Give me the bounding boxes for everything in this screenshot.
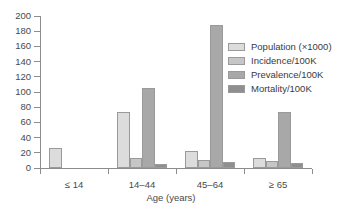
chart-legend: Population (×1000)Incidence/100KPrevalen… <box>228 40 340 96</box>
bar <box>210 25 223 168</box>
legend-label: Population (×1000) <box>251 42 332 52</box>
x-axis-tick <box>108 169 109 174</box>
legend-item: Incidence/100K <box>228 54 340 67</box>
y-axis-tick-label: 180 <box>3 26 31 36</box>
legend-swatch-icon <box>228 85 245 93</box>
bar <box>185 151 198 168</box>
legend-label: Incidence/100K <box>251 56 317 66</box>
y-axis-tick-label: 160 <box>3 41 31 51</box>
y-axis-tick-label: 120 <box>3 72 31 82</box>
y-axis-tick-label: 100 <box>3 87 31 97</box>
y-axis-tick-label: 140 <box>3 57 31 67</box>
legend-label: Prevalence/100K <box>251 70 323 80</box>
y-axis-tick-label: 0 <box>3 163 31 173</box>
legend-swatch-icon <box>228 57 245 65</box>
bar-chart: 020406080100120140160180200 ≤ 1414–4445–… <box>0 0 342 209</box>
x-axis-tick-label: 45–64 <box>197 180 223 190</box>
x-axis-tick-label: ≤ 14 <box>65 180 83 190</box>
y-axis-tick-label: 200 <box>3 11 31 21</box>
legend-swatch-icon <box>228 43 245 51</box>
bar <box>155 164 168 168</box>
x-axis-tick-label: 14–44 <box>129 180 155 190</box>
bar <box>117 112 130 168</box>
x-axis-title: Age (years) <box>0 193 342 203</box>
legend-label: Mortality/100K <box>251 84 312 94</box>
x-axis-tick-label: ≥ 65 <box>269 180 287 190</box>
bar <box>198 160 211 168</box>
bar <box>266 161 279 168</box>
bar <box>223 162 236 168</box>
legend-item: Mortality/100K <box>228 82 340 95</box>
legend-item: Population (×1000) <box>228 40 340 53</box>
bar <box>130 158 143 168</box>
x-axis-tick <box>176 169 177 174</box>
x-axis-tick <box>312 169 313 174</box>
y-axis-tick-label: 80 <box>3 102 31 112</box>
bar <box>278 112 291 168</box>
bar <box>253 158 266 168</box>
x-axis-tick <box>40 169 41 174</box>
x-axis-tick <box>244 169 245 174</box>
legend-swatch-icon <box>228 71 245 79</box>
legend-item: Prevalence/100K <box>228 68 340 81</box>
y-axis-tick-label: 40 <box>3 133 31 143</box>
bar <box>142 88 155 168</box>
bar <box>291 163 304 168</box>
bar <box>49 148 62 168</box>
y-axis-tick-label: 20 <box>3 148 31 158</box>
y-axis-tick-label: 60 <box>3 117 31 127</box>
